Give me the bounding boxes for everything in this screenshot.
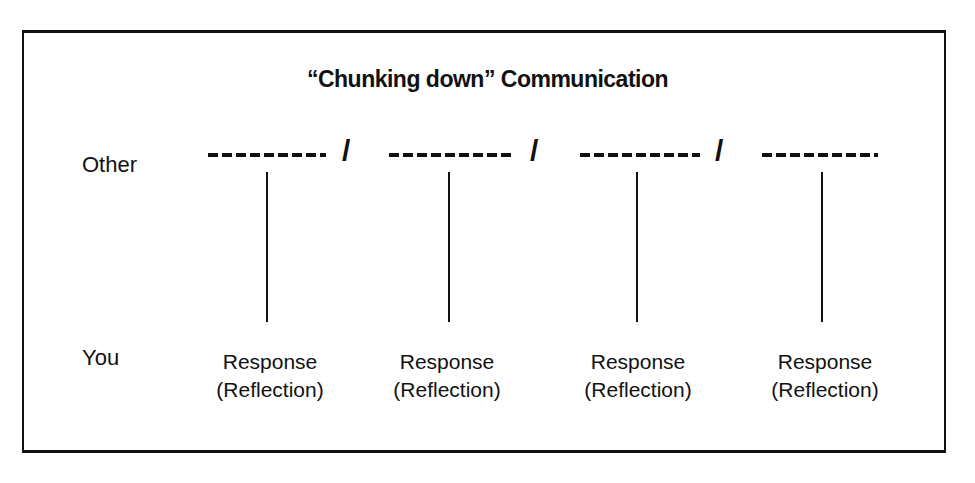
other-utterance-4 — [762, 153, 878, 157]
row-label-you: You — [82, 345, 119, 371]
connector-line-1 — [266, 172, 268, 322]
diagram-title: “Chunking down” Communication — [0, 66, 975, 93]
response-3: Response(Reflection) — [558, 348, 718, 404]
other-utterance-1 — [208, 153, 326, 157]
separator-3: / — [715, 134, 723, 168]
row-label-other: Other — [82, 152, 137, 178]
connector-line-2 — [448, 172, 450, 322]
response-4: Response(Reflection) — [745, 348, 905, 404]
other-utterance-2 — [389, 153, 515, 157]
other-utterance-3 — [580, 153, 700, 157]
connector-line-3 — [636, 172, 638, 322]
response-1: Response(Reflection) — [190, 348, 350, 404]
response-2: Response(Reflection) — [367, 348, 527, 404]
connector-line-4 — [821, 172, 823, 322]
separator-2: / — [530, 134, 538, 168]
separator-1: / — [342, 134, 350, 168]
